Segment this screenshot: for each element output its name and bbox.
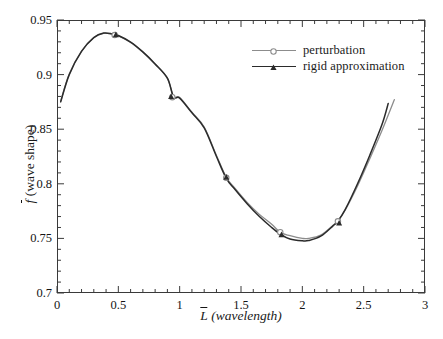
x-tick-label: 2.5 (356, 298, 372, 313)
x-tick-label: 0 (54, 298, 60, 313)
y-axis-title: f (wave shape) (22, 84, 38, 244)
y-tick-label: 0.8 (36, 176, 52, 191)
y-tick-label: 0.9 (36, 67, 52, 82)
x-tick-label: 0.5 (111, 298, 127, 313)
triangle-marker-icon (269, 63, 278, 72)
legend-item-rigid-approximation: rigid approximation (252, 59, 405, 74)
circle-marker-icon (269, 47, 278, 56)
y-tick-label: 0.95 (30, 13, 52, 28)
x-tick-label: 1 (177, 298, 183, 313)
legend-item-perturbation: perturbation (252, 43, 405, 58)
y-tick-label: 0.7 (36, 286, 52, 301)
y-axis-symbol: f (22, 200, 38, 204)
legend-label-rigid-approximation: rigid approximation (303, 59, 405, 74)
x-axis-symbol: L (200, 308, 208, 324)
x-tick-label: 2 (299, 298, 305, 313)
figure: 00.511.522.53 0.70.750.80.850.90.95 L (w… (0, 0, 443, 339)
legend-swatch-rigid-approximation (252, 61, 296, 73)
legend-swatch-perturbation (252, 45, 296, 57)
y-axis-unit: (wave shape) (22, 125, 37, 197)
x-axis-unit: (wavelength) (211, 308, 281, 323)
legend: perturbation rigid approximation (252, 43, 405, 75)
x-tick-label: 3 (422, 298, 428, 313)
x-axis-title: L (wavelength) (200, 308, 281, 324)
legend-label-perturbation: perturbation (303, 43, 365, 58)
